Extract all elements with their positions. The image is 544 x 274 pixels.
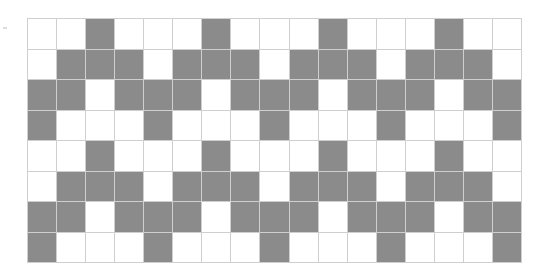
grid-cell-r1-c11 — [348, 50, 377, 81]
grid-cell-r7-c13 — [406, 233, 435, 264]
grid-cell-r6-c2 — [86, 202, 115, 233]
grid-cell-r4-c15 — [464, 141, 493, 172]
grid-cell-r0-c3 — [115, 19, 144, 50]
grid-cell-r2-c4 — [144, 80, 173, 111]
grid-cell-r2-c1 — [57, 80, 86, 111]
grid-cell-r3-c11 — [348, 111, 377, 142]
margin-mark — [3, 27, 7, 29]
grid-cell-r6-c1 — [57, 202, 86, 233]
grid-cell-r7-c5 — [173, 233, 202, 264]
grid-cell-r5-c1 — [57, 172, 86, 203]
grid-cell-r2-c7 — [231, 80, 260, 111]
grid-cell-r0-c4 — [144, 19, 173, 50]
grid-cell-r1-c9 — [290, 50, 319, 81]
grid-cell-r7-c16 — [493, 233, 522, 264]
grid-cell-r4-c7 — [231, 141, 260, 172]
grid-cell-r1-c4 — [144, 50, 173, 81]
grid-cell-r5-c9 — [290, 172, 319, 203]
grid-cell-r7-c3 — [115, 233, 144, 264]
grid-cell-r4-c9 — [290, 141, 319, 172]
grid-cell-r6-c15 — [464, 202, 493, 233]
grid-cell-r1-c14 — [435, 50, 464, 81]
grid-cell-r1-c8 — [260, 50, 289, 81]
grid-cell-r6-c11 — [348, 202, 377, 233]
grid-cell-r0-c9 — [290, 19, 319, 50]
grid-cell-r4-c5 — [173, 141, 202, 172]
grid-cell-r2-c10 — [319, 80, 348, 111]
grid-cell-r3-c10 — [319, 111, 348, 142]
grid-cell-r2-c13 — [406, 80, 435, 111]
grid-cell-r3-c14 — [435, 111, 464, 142]
grid-cell-r1-c7 — [231, 50, 260, 81]
grid-cell-r0-c12 — [377, 19, 406, 50]
grid-cell-r5-c11 — [348, 172, 377, 203]
grid-cell-r0-c6 — [202, 19, 231, 50]
grid-cell-r0-c14 — [435, 19, 464, 50]
grid-cell-r7-c8 — [260, 233, 289, 264]
grid-cell-r5-c10 — [319, 172, 348, 203]
grid-cell-r2-c8 — [260, 80, 289, 111]
grid-cell-r3-c16 — [493, 111, 522, 142]
grid-cell-r5-c4 — [144, 172, 173, 203]
grid-cell-r5-c15 — [464, 172, 493, 203]
grid-cell-r2-c0 — [28, 80, 57, 111]
grid-cell-r0-c1 — [57, 19, 86, 50]
grid-cell-r3-c3 — [115, 111, 144, 142]
grid-cell-r7-c15 — [464, 233, 493, 264]
grid-cell-r6-c12 — [377, 202, 406, 233]
grid-cell-r1-c13 — [406, 50, 435, 81]
grid-cell-r1-c0 — [28, 50, 57, 81]
grid-cell-r7-c2 — [86, 233, 115, 264]
grid-cell-r0-c15 — [464, 19, 493, 50]
grid-cell-r5-c0 — [28, 172, 57, 203]
grid-cell-r7-c9 — [290, 233, 319, 264]
grid-cell-r2-c15 — [464, 80, 493, 111]
grid-cell-r2-c6 — [202, 80, 231, 111]
grid-cell-r5-c7 — [231, 172, 260, 203]
grid-cell-r3-c9 — [290, 111, 319, 142]
grid-cell-r0-c2 — [86, 19, 115, 50]
grid-cell-r4-c11 — [348, 141, 377, 172]
grid-cell-r3-c8 — [260, 111, 289, 142]
grid-cell-r7-c11 — [348, 233, 377, 264]
grid-cell-r4-c4 — [144, 141, 173, 172]
grid-cell-r4-c12 — [377, 141, 406, 172]
grid-cell-r1-c6 — [202, 50, 231, 81]
grid-cell-r3-c0 — [28, 111, 57, 142]
grid-cell-r1-c5 — [173, 50, 202, 81]
grid-cell-r6-c0 — [28, 202, 57, 233]
grid-cell-r2-c11 — [348, 80, 377, 111]
grid-cell-r4-c2 — [86, 141, 115, 172]
grid-cell-r6-c7 — [231, 202, 260, 233]
grid-cell-r2-c16 — [493, 80, 522, 111]
grid-cell-r1-c1 — [57, 50, 86, 81]
grid-cell-r7-c6 — [202, 233, 231, 264]
grid-cell-r6-c14 — [435, 202, 464, 233]
grid-cell-r6-c8 — [260, 202, 289, 233]
grid-cell-r1-c3 — [115, 50, 144, 81]
grid-cell-r6-c4 — [144, 202, 173, 233]
grid-cell-r5-c5 — [173, 172, 202, 203]
grid-cell-r0-c16 — [493, 19, 522, 50]
grid-cell-r0-c13 — [406, 19, 435, 50]
grid-cell-r0-c11 — [348, 19, 377, 50]
grid-cell-r5-c16 — [493, 172, 522, 203]
grid-cell-r4-c3 — [115, 141, 144, 172]
grid-cell-r5-c6 — [202, 172, 231, 203]
grid-cell-r0-c5 — [173, 19, 202, 50]
grid-cell-r6-c6 — [202, 202, 231, 233]
grid-cell-r7-c0 — [28, 233, 57, 264]
grid-cell-r6-c9 — [290, 202, 319, 233]
grid-cell-r2-c14 — [435, 80, 464, 111]
grid-cell-r3-c7 — [231, 111, 260, 142]
grid-cell-r5-c2 — [86, 172, 115, 203]
grid-cell-r4-c13 — [406, 141, 435, 172]
grid-cell-r4-c10 — [319, 141, 348, 172]
grid-cell-r7-c7 — [231, 233, 260, 264]
grid-cell-r0-c10 — [319, 19, 348, 50]
grid-cell-r3-c15 — [464, 111, 493, 142]
grid-cell-r4-c16 — [493, 141, 522, 172]
grid-cell-r0-c8 — [260, 19, 289, 50]
grid-cell-r1-c15 — [464, 50, 493, 81]
grid-cell-r4-c14 — [435, 141, 464, 172]
